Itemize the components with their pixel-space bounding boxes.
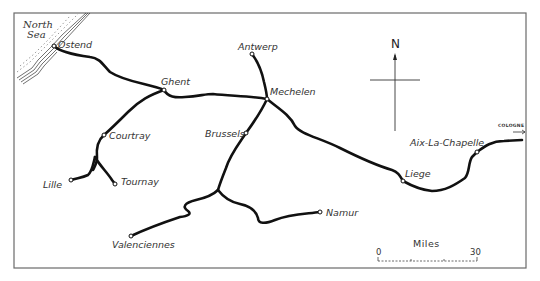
cologne-arrow-icon	[513, 130, 525, 134]
sea-label-sea: Sea	[27, 29, 46, 40]
north-arrow-icon	[370, 53, 420, 131]
town-label-namur: Namur	[326, 207, 359, 218]
town-marker-antwerp	[250, 52, 254, 56]
town-label-brussels: Brussels	[205, 128, 245, 139]
town-marker-mechelen	[265, 97, 269, 101]
town-label-ghent: Ghent	[161, 76, 191, 87]
town-marker-aix	[475, 150, 479, 154]
town-marker-ghent	[162, 88, 166, 92]
town-label-lille: Lille	[43, 179, 62, 190]
rail-antwerp-mechelen	[252, 54, 267, 99]
town-label-courtray: Courtray	[109, 130, 151, 141]
belgium-railway-map: North Sea	[0, 0, 540, 281]
rail-courtray-junction	[93, 135, 104, 170]
town-label-aix: Aix-La-Chapelle	[409, 137, 484, 148]
town-marker-namur	[318, 210, 322, 214]
rail-ghent-mechelen	[164, 90, 267, 99]
town-label-mechelen: Mechelen	[270, 86, 316, 97]
town-label-ostend: Ostend	[58, 39, 93, 50]
town-label-liege: Liege	[405, 168, 431, 179]
scale-end-label: 30	[470, 247, 481, 257]
scale-title: Miles	[413, 238, 440, 249]
town-marker-valenciennes	[129, 234, 133, 238]
town-marker-lille	[69, 178, 73, 182]
rail-ostend-ghent	[54, 46, 164, 90]
town-label-valenciennes: Valenciennes	[112, 239, 175, 250]
rail-junction-tournay	[95, 157, 115, 184]
town-marker-liege	[401, 179, 405, 183]
rail-junction-namur	[218, 190, 320, 223]
rail-brussels-south	[218, 133, 246, 190]
rail-junction-valenciennes	[131, 190, 218, 236]
rail-mechelen-brussels	[246, 99, 267, 133]
scale-bar	[378, 257, 477, 261]
cologne-label: COLOGNE	[498, 123, 524, 128]
town-marker-tournay	[113, 182, 117, 186]
scale-start-label: 0	[376, 247, 381, 257]
rail-mechelen-liege	[267, 99, 403, 181]
rail-junction-lille	[71, 157, 95, 180]
town-marker-ostend	[52, 44, 56, 48]
town-marker-courtray	[102, 133, 106, 137]
town-label-antwerp: Antwerp	[237, 41, 278, 52]
rail-ghent-courtray	[104, 90, 164, 135]
compass-north-label: N	[391, 37, 400, 51]
town-label-tournay: Tournay	[121, 176, 159, 187]
